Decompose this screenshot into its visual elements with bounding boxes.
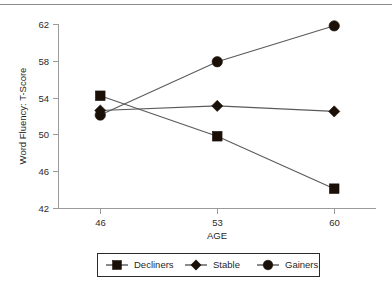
line-chart-canvas: 424650545862 Word Fluency: T-Score 46536… (0, 0, 392, 283)
y-tick-label-46: 46 (38, 166, 49, 177)
data-point-gainers-53 (212, 57, 222, 67)
y-axis-title: Word Fluency: T-Score (17, 68, 28, 165)
series-markers-stable (95, 100, 340, 117)
legend-item-gainers[interactable]: Gainers (257, 259, 319, 270)
data-series-layer (95, 21, 340, 194)
legend-marker-circle-icon (263, 260, 273, 270)
chart-figure: 424650545862 Word Fluency: T-Score 46536… (0, 0, 392, 283)
data-point-decliners-53 (212, 131, 222, 141)
legend-item-decliners[interactable]: Decliners (106, 259, 174, 270)
data-point-decliners-60 (329, 184, 339, 194)
legend-label-decliners: Decliners (134, 259, 174, 270)
legend-label-gainers: Gainers (285, 259, 319, 270)
x-tick-label-53: 53 (212, 217, 223, 228)
data-point-gainers-60 (329, 21, 339, 31)
chart-legend: DeclinersStableGainers (98, 254, 320, 277)
x-tick-group (101, 209, 335, 215)
legend-item-group: DeclinersStableGainers (106, 259, 319, 270)
legend-marker-square-icon (113, 261, 122, 270)
legend-label-stable: Stable (213, 259, 240, 270)
x-tick-label-group: 465360 (95, 217, 340, 228)
y-tick-label-54: 54 (38, 93, 49, 104)
y-tick-label-58: 58 (38, 56, 49, 67)
x-axis: 465360 AGE (59, 209, 377, 242)
y-tick-label-group: 424650545862 (38, 19, 49, 214)
y-tick-label-42: 42 (38, 203, 49, 214)
x-axis-title: AGE (207, 230, 227, 241)
data-point-stable-53 (212, 100, 223, 111)
y-axis: 424650545862 Word Fluency: T-Score (17, 19, 59, 214)
y-tick-label-50: 50 (38, 129, 49, 140)
x-tick-label-46: 46 (95, 217, 106, 228)
x-tick-label-60: 60 (329, 217, 340, 228)
data-point-decliners-46 (95, 91, 105, 101)
data-point-stable-60 (329, 106, 340, 117)
data-point-gainers-46 (95, 110, 105, 120)
y-tick-group (53, 25, 59, 209)
y-tick-label-62: 62 (38, 19, 49, 30)
